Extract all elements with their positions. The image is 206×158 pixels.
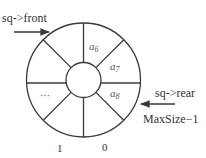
- front-pointer-label: sq->front: [2, 11, 47, 25]
- circular-queue-diagram: a6 a7 a8 ··· 1 0 MaxSize−1 sq->front sq-…: [0, 0, 206, 158]
- slot-label-ellipsis: ···: [40, 90, 50, 101]
- slot-label-a6: a6: [89, 40, 99, 54]
- slot-dividers: [27, 23, 141, 137]
- rear-pointer-label: sq->rear: [155, 86, 195, 100]
- index-label-maxsize-1: MaxSize−1: [143, 112, 198, 126]
- inner-ring: [66, 63, 101, 98]
- slot-label-a7: a7: [110, 60, 121, 74]
- index-label-0: 0: [102, 141, 108, 153]
- index-label-1: 1: [57, 142, 63, 154]
- slot-label-a8: a8: [110, 87, 120, 101]
